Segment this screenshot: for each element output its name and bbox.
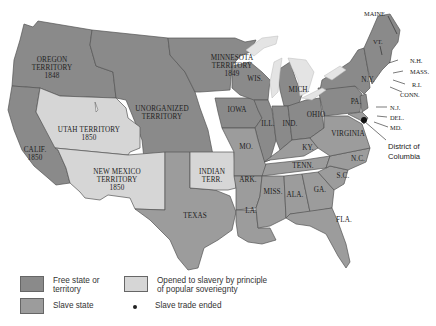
dc-label-1: District of <box>388 142 421 151</box>
map-legend: Free state or territory Slave state Open… <box>20 276 430 322</box>
ind-label: IND. <box>283 120 298 128</box>
unorganized-label-2: TERRITORY <box>142 113 183 121</box>
legend-dot-text: Slave trade ended <box>155 301 315 310</box>
new-mexico-label-year: 1850 <box>110 184 125 192</box>
md-label: MD. <box>390 124 402 131</box>
legend-pop-text: Opened to slavery by principle of popula… <box>157 276 357 294</box>
nh-label: N.H. <box>410 57 423 64</box>
wis-label: WIS. <box>247 75 262 83</box>
mass-label: MASS. <box>410 68 429 75</box>
tenn-label: TENN. <box>292 162 314 170</box>
slave-swatch <box>20 298 44 314</box>
ny-label: N.Y. <box>361 76 375 84</box>
dc-marker <box>361 117 367 123</box>
minnesota-label-year: 1849 <box>225 70 240 78</box>
pop-swatch <box>124 276 148 292</box>
legend-item-slave-trade: Slave trade ended <box>124 301 315 310</box>
mich-label: MICH. <box>288 86 309 94</box>
iowa-label: IOWA <box>227 106 247 114</box>
legend-pop-line1: Opened to slavery by principle <box>157 276 357 285</box>
texas-label: TEXAS <box>183 212 207 220</box>
oregon-label-year: 1848 <box>45 72 60 80</box>
indian-terr-label-2: TERR. <box>202 176 223 184</box>
ky-label: KY. <box>302 144 314 152</box>
mo-label: MO. <box>239 143 253 151</box>
new-mexico-label-2: TERRITORY <box>97 176 138 184</box>
california-label-year: 1850 <box>28 154 43 162</box>
california-label: CALIF. <box>24 146 47 154</box>
utah-label: UTAH TERRITORY <box>58 126 121 134</box>
oregon-label-1: OREGON <box>37 56 68 64</box>
dc-label-2: Columbia <box>388 152 421 161</box>
ark-label: ARK. <box>239 176 256 184</box>
indian-terr-label-1: INDIAN <box>199 168 226 176</box>
pa-label: PA. <box>351 98 362 106</box>
ala-label: ALA. <box>287 191 304 199</box>
del-label: DEL. <box>390 114 404 121</box>
minnesota-label-1: MINNESOTA <box>211 54 254 62</box>
legend-item-popular-sovereignty: Opened to slavery by principle of popula… <box>124 276 357 294</box>
utah-label-year: 1850 <box>82 134 97 142</box>
unorganized-label-1: UNORGANIZED <box>135 105 188 113</box>
nj-label: N.J. <box>390 104 401 111</box>
region-new-england <box>364 14 400 84</box>
ill-label: ILL. <box>261 120 274 128</box>
slave-trade-dot-icon <box>133 305 137 309</box>
fla-label: FLA. <box>336 216 352 224</box>
ohio-label: OHIO <box>307 111 325 119</box>
free-swatch <box>20 276 44 292</box>
la-label: LA. <box>245 207 257 215</box>
conn-label: CONN. <box>400 91 420 98</box>
minnesota-label-2: TERRITORY <box>212 62 253 70</box>
legend-pop-line2: of popular soveriegnty <box>157 285 357 294</box>
nc-label: N.C. <box>351 155 365 163</box>
oregon-label-2: TERRITORY <box>32 64 73 72</box>
miss-label: MISS. <box>263 188 282 196</box>
virginia-label: VIRGINIA <box>331 130 365 138</box>
maine-label: MAINE <box>364 10 385 17</box>
vt-label: VT. <box>373 38 383 45</box>
new-mexico-label-1: NEW MEXICO <box>93 168 140 176</box>
ri-label: R.I. <box>412 81 422 88</box>
ga-label: GA. <box>314 186 327 194</box>
sc-label: S.C. <box>337 172 350 180</box>
